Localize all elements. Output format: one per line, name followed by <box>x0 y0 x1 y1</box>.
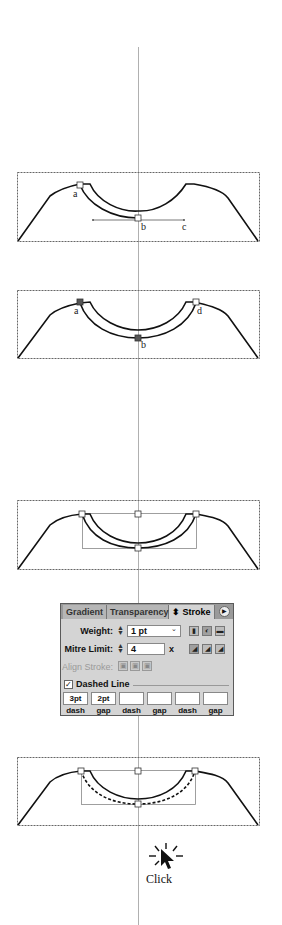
align-center-icon[interactable]: ▣ <box>118 661 128 671</box>
dashed-line-checkbox[interactable]: ✓ <box>64 680 73 689</box>
gap-3-caption: gap <box>203 706 228 715</box>
label-c: c <box>182 221 187 232</box>
dash-3-input[interactable] <box>175 692 200 705</box>
dash-1-caption: dash <box>63 706 88 715</box>
gap-2-input[interactable] <box>147 692 172 705</box>
gap-3-input[interactable] <box>203 692 228 705</box>
miter-join-icon[interactable]: ◢ <box>189 644 199 654</box>
weight-stepper-icon[interactable]: ▲▼ <box>116 625 125 636</box>
weight-dropdown-chevron-icon[interactable]: ⌄ <box>169 626 179 637</box>
weight-label: Weight: <box>61 626 113 636</box>
anchor-a <box>77 182 83 188</box>
panel-tab-bar: Gradient Transparency ⬍ Stroke ▶ <box>61 604 233 619</box>
click-cursor-icon <box>149 843 183 869</box>
dashed-line-divider <box>133 685 229 686</box>
align-outside-icon[interactable]: ▣ <box>142 661 152 671</box>
dash-2-input[interactable] <box>119 692 144 705</box>
stroke-panel: Gradient Transparency ⬍ Stroke ▶ Weight:… <box>60 603 234 716</box>
butt-cap-icon[interactable]: ▮ <box>189 626 199 636</box>
label-b: b <box>141 339 146 350</box>
align-inside-icon[interactable]: ▣ <box>130 661 140 671</box>
dash-1-input[interactable]: 3pt <box>63 692 88 705</box>
diagram-canvas: a b c a b d <box>0 0 282 925</box>
label-a: a <box>74 305 79 316</box>
mitre-stepper-icon[interactable]: ▲▼ <box>116 643 125 654</box>
tab-transparency[interactable]: Transparency <box>107 605 169 619</box>
gap-1-caption: gap <box>91 706 116 715</box>
bevel-join-icon[interactable]: ◢ <box>215 644 225 654</box>
panel-menu-icon[interactable]: ▶ <box>219 606 230 617</box>
align-stroke-label: Align Stroke: <box>61 662 113 672</box>
label-a: a <box>73 188 78 199</box>
click-caption: Click <box>146 872 172 887</box>
dashed-line-label: Dashed Line <box>76 679 130 689</box>
gap-1-input[interactable]: 2pt <box>91 692 116 705</box>
tab-gradient[interactable]: Gradient <box>63 605 107 619</box>
tab-stroke[interactable]: ⬍ Stroke <box>169 605 215 619</box>
dash-2-caption: dash <box>119 706 144 715</box>
round-join-icon[interactable]: ◢ <box>202 644 212 654</box>
mitre-unit: x <box>169 644 174 654</box>
gap-2-caption: gap <box>147 706 172 715</box>
dash-3-caption: dash <box>175 706 200 715</box>
projecting-cap-icon[interactable]: ▬ <box>215 626 225 636</box>
label-d: d <box>197 305 202 316</box>
label-b: b <box>141 221 146 232</box>
mitre-limit-input[interactable]: 4 <box>127 643 165 655</box>
round-cap-icon[interactable]: ◐ <box>202 626 212 636</box>
mitre-limit-label: Mitre Limit: <box>61 644 113 654</box>
